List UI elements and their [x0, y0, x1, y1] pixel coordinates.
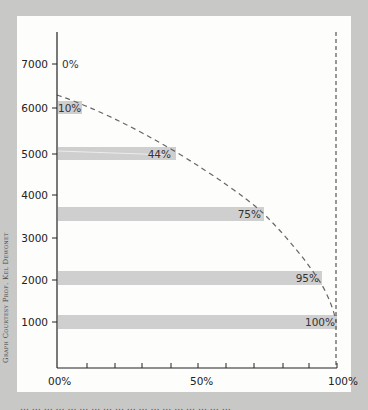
- bar-100: [58, 315, 337, 329]
- bar-95: [58, 271, 322, 285]
- label-10pct: 10%: [58, 102, 81, 114]
- y-ticks: [52, 64, 57, 322]
- svg-text:5000: 5000: [21, 148, 48, 160]
- label-44pct: 44%: [148, 148, 171, 160]
- svg-text:3000: 3000: [21, 232, 48, 244]
- label-100pct: 100%: [305, 316, 335, 328]
- bar-chart: 0% 10% 44% 75% 95% 100% 7000 6000 5000 4…: [0, 0, 368, 410]
- bar-75: [58, 207, 264, 221]
- label-75pct: 75%: [238, 208, 261, 220]
- svg-text:1000: 1000: [21, 316, 48, 328]
- svg-text:2000: 2000: [21, 274, 48, 286]
- svg-text:50%: 50%: [190, 375, 213, 387]
- svg-text:6000: 6000: [21, 102, 48, 114]
- bar-labels: 0% 10% 44% 75% 95% 100%: [58, 58, 335, 328]
- svg-text:7000: 7000: [21, 58, 48, 70]
- y-tick-labels: 7000 6000 5000 4000 3000 2000 1000: [21, 58, 48, 328]
- svg-text:4000: 4000: [21, 189, 48, 201]
- bars: [58, 101, 337, 329]
- svg-text:00%: 00%: [48, 375, 71, 387]
- photo-credit: Graph Courtesy Prof. Kel Dewonet: [2, 200, 16, 395]
- caption-fragment: … … … … … … … … … … … … … … … … … …: [20, 396, 360, 410]
- x-tick-labels: 00% 50% 100%: [48, 375, 358, 387]
- label-0pct: 0%: [62, 58, 79, 70]
- svg-text:100%: 100%: [328, 375, 358, 387]
- x-ticks: [87, 363, 337, 368]
- label-95pct: 95%: [296, 272, 319, 284]
